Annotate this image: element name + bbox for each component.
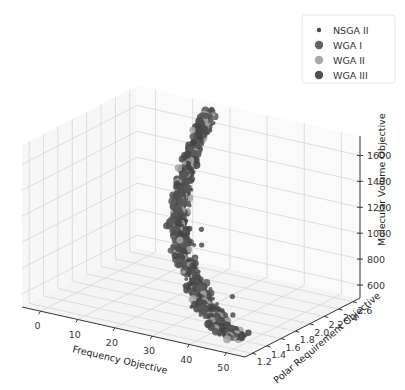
- data-point: [199, 227, 204, 232]
- z-tick-label: 600: [367, 280, 385, 291]
- scatter-3d-chart: 010203040501.21.41.61.82.02.22.42.660080…: [0, 0, 405, 390]
- y-tick: [252, 353, 256, 354]
- y-tick: [267, 346, 271, 347]
- x-tick: [39, 311, 41, 314]
- x-tick-label: 10: [69, 329, 81, 340]
- z-tick-label: 800: [367, 254, 385, 265]
- y-tick: [338, 309, 342, 310]
- y-tick: [281, 339, 285, 340]
- data-point: [192, 243, 196, 247]
- y-tick: [324, 316, 328, 317]
- data-point: [168, 247, 174, 253]
- legend: NSGA II WGA I WGA II WGA III: [302, 15, 395, 83]
- x-tick: [224, 353, 226, 356]
- data-point: [189, 127, 195, 133]
- data-point: [175, 164, 182, 171]
- z-axis-title: Molecular Volume Objective: [376, 113, 387, 246]
- data-point: [238, 335, 243, 340]
- data-point: [182, 270, 186, 274]
- legend-label: NSGA II: [333, 25, 369, 36]
- x-tick: [187, 345, 189, 348]
- x-tick: [150, 336, 152, 339]
- legend-marker-icon: [315, 71, 323, 79]
- x-tick-label: 20: [106, 337, 118, 348]
- y-tick-label: 1.4: [271, 349, 286, 360]
- legend-marker-icon: [315, 56, 323, 64]
- data-point: [202, 129, 206, 133]
- data-point: [198, 313, 202, 317]
- data-point: [192, 273, 196, 277]
- data-point: [163, 222, 170, 229]
- data-point: [183, 179, 189, 185]
- data-point: [230, 294, 235, 299]
- y-tick-label: 1.6: [285, 342, 300, 353]
- x-tick-label: 30: [143, 345, 155, 356]
- x-tick-label: 0: [35, 320, 41, 331]
- data-point: [191, 179, 195, 183]
- data-point: [190, 305, 194, 309]
- data-point: [177, 237, 184, 244]
- legend-marker-icon: [315, 41, 323, 49]
- data-point: [202, 112, 209, 119]
- legend-label: WGA III: [333, 70, 368, 81]
- data-point: [179, 174, 186, 181]
- data-point: [234, 333, 238, 337]
- legend-label: WGA II: [333, 55, 365, 66]
- legend-label: WGA I: [333, 40, 362, 51]
- data-point: [177, 198, 185, 206]
- y-tick: [353, 302, 357, 303]
- data-point: [176, 262, 183, 269]
- data-point: [177, 212, 181, 216]
- data-point: [184, 219, 188, 223]
- data-point: [183, 161, 187, 165]
- legend-marker-icon: [317, 28, 321, 32]
- data-point: [209, 107, 214, 112]
- x-tick: [113, 328, 115, 331]
- data-point: [223, 335, 231, 343]
- data-point: [184, 277, 188, 281]
- y-tick: [295, 331, 299, 332]
- data-point: [230, 312, 235, 317]
- data-point: [199, 242, 204, 247]
- data-point: [183, 284, 187, 288]
- y-tick: [310, 324, 314, 325]
- data-point: [174, 180, 180, 186]
- data-point: [218, 333, 222, 337]
- data-point: [168, 198, 176, 206]
- data-point: [172, 238, 176, 242]
- x-tick-label: 40: [180, 354, 192, 365]
- y-tick-label: 1.2: [257, 356, 272, 367]
- data-point: [172, 252, 179, 259]
- x-tick: [76, 320, 78, 323]
- x-tick-label: 50: [217, 362, 229, 373]
